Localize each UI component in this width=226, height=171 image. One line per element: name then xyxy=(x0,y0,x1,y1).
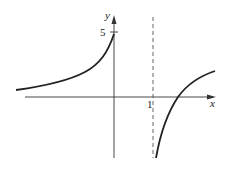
x-tick-label-1: 1 xyxy=(147,98,153,110)
y-axis-arrow-icon xyxy=(112,15,117,24)
right-branch-curve xyxy=(156,71,215,158)
y-tick-label-5: 5 xyxy=(100,26,106,38)
function-graph: y 5 1 x xyxy=(0,0,226,171)
x-axis-label: x xyxy=(209,97,215,109)
y-axis-label: y xyxy=(104,9,110,21)
left-branch-curve xyxy=(16,34,114,90)
